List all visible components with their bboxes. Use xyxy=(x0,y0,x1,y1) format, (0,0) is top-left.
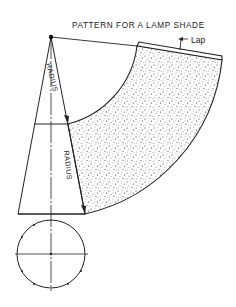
diagram-title: PATTERN FOR A LAMP SHADE xyxy=(72,21,205,30)
developed-pattern xyxy=(68,46,222,214)
lamp-shade-diagram xyxy=(0,0,236,307)
apex-point xyxy=(49,35,53,39)
plan-center-dot xyxy=(50,253,52,255)
lap-leader-drop xyxy=(180,39,181,50)
apex-to-pattern-line xyxy=(51,37,137,46)
radius-arrow-upper-icon xyxy=(64,115,69,124)
lap-label: Lap xyxy=(191,35,205,45)
